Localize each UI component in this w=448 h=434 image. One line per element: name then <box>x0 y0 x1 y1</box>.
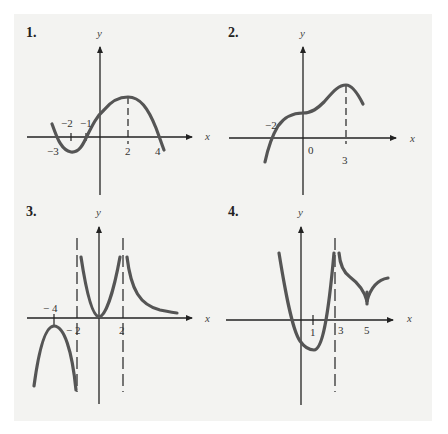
tick-label: −3 <box>47 145 59 157</box>
tick-label: 2 <box>119 324 125 336</box>
graph-3-x-label: x <box>204 312 210 324</box>
tick-label: 1 <box>310 326 316 338</box>
graph-3-curve-right <box>127 257 177 313</box>
graph-4-curve-right-b <box>367 278 388 301</box>
tick-label: 3 <box>338 324 344 336</box>
tick-label: − 2 <box>66 324 80 336</box>
tick-label: −2 <box>265 119 277 131</box>
graph-1: 1. y x −3 −2 −1 2 4 <box>26 25 210 195</box>
tick-label: 3 <box>342 154 348 166</box>
graph-4-curve-left <box>279 253 334 350</box>
graph-1-title: 1. <box>26 25 37 40</box>
tick-label: −1 <box>80 117 92 129</box>
tick-label: −2 <box>61 117 73 129</box>
graph-4-x-label: x <box>406 312 412 324</box>
graph-2-title: 2. <box>228 25 239 40</box>
graph-2-curve <box>265 85 363 162</box>
graph-3-title: 3. <box>26 204 37 219</box>
tick-label: 4 <box>155 145 161 157</box>
graphs-figure: 1. y x −3 −2 −1 2 4 2. y x −2 0 3 3. y x <box>0 0 448 434</box>
graph-2-x-label: x <box>409 132 415 144</box>
graph-2: 2. y x −2 0 3 <box>228 25 415 195</box>
graph-4: 4. y x 1 3 5 <box>226 204 412 405</box>
tick-label: 5 <box>364 324 370 336</box>
tick-label: − 4 <box>43 302 58 314</box>
graph-1-y-label: y <box>96 27 102 39</box>
graph-3-y-label: y <box>95 206 101 218</box>
graph-4-curve-right-a <box>339 253 367 301</box>
graph-3-curve-middle <box>81 257 120 317</box>
graph-1-x-label: x <box>204 130 210 142</box>
graph-4-title: 4. <box>228 204 239 219</box>
tick-label: 0 <box>308 144 314 156</box>
graph-3: 3. y x − 4 − 2 2 <box>26 204 210 404</box>
graph-2-y-label: y <box>299 27 305 39</box>
graph-4-y-label: y <box>297 206 303 218</box>
tick-label: 2 <box>125 145 131 157</box>
